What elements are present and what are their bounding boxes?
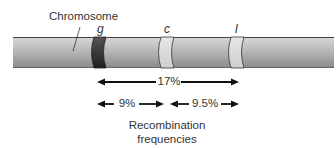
distance-g-to-l: 17% [157,75,181,87]
chromosome [13,37,334,68]
gene-label-c: c [164,22,170,36]
gene-label-l: l [235,22,238,36]
distance-g-to-c: 9% [115,97,139,109]
chromosome-label: Chromosome [49,10,118,22]
distance-c-to-l: 9.5% [189,97,221,109]
band-c [159,37,175,68]
band-g [92,37,107,68]
gene-label-g: g [97,22,104,36]
caption-line-1: Recombination [117,118,217,132]
caption: Recombination frequencies [117,118,217,146]
caption-line-2: frequencies [117,132,217,146]
band-l [229,37,245,68]
